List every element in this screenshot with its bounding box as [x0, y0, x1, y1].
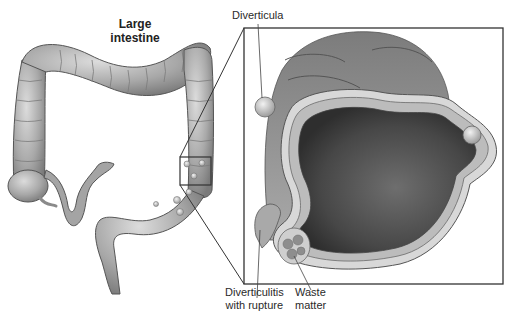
label-diverticula: Diverticula [232, 9, 283, 22]
large-intestine-title: Large intestine [100, 17, 170, 45]
diverticulum-right [463, 126, 481, 144]
colon-overview [8, 43, 214, 294]
sigmoid-colon [96, 190, 204, 294]
diagram-illustration [0, 0, 511, 312]
title-line-2: intestine [100, 31, 170, 45]
diverticulum-left [255, 97, 275, 117]
appendix [40, 198, 56, 206]
waste-line-1: Waste [295, 286, 326, 299]
terminal-ileum [44, 162, 114, 226]
descending-colon [184, 47, 214, 197]
rupture-line-2: with rupture [225, 299, 284, 312]
rupture-line-1: Diverticulitis [225, 286, 284, 299]
diverticula-text: Diverticula [232, 9, 283, 21]
label-diverticulitis-rupture: Diverticulitis with rupture [225, 286, 284, 312]
cecum [8, 170, 48, 202]
callout-line-bottom [180, 185, 244, 284]
label-waste-matter: Waste matter [295, 286, 326, 312]
waste-line-2: matter [295, 299, 326, 312]
inset-panel [244, 24, 503, 298]
title-line-1: Large [100, 17, 170, 31]
